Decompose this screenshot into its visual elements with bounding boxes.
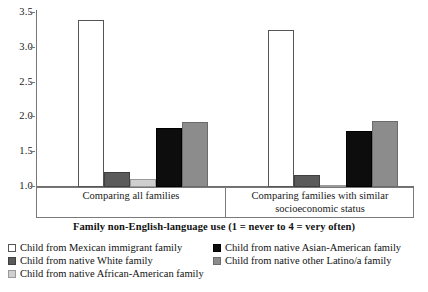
category-label-1: Comparing families with similarsocioecon… <box>226 190 414 215</box>
legend-swatch <box>213 257 221 265</box>
legend-item-3: Child from native Asian-American family <box>213 241 401 254</box>
legend-item-0: Child from Mexican immigrant family <box>8 241 182 254</box>
y-tick-mark <box>30 12 35 13</box>
legend-label: Child from Mexican immigrant family <box>20 242 182 253</box>
legend-swatch <box>8 257 16 265</box>
y-tick-mark <box>30 82 35 83</box>
y-tick-mark <box>30 116 35 117</box>
legend-label: Child from native White family <box>20 255 153 266</box>
bar-g1-s3 <box>346 131 372 187</box>
legend-label: Child from native other Latino/a family <box>225 255 392 266</box>
bar-g0-s4 <box>182 122 208 187</box>
bar-g1-s0 <box>268 30 294 187</box>
bar-g0-s3 <box>156 128 182 187</box>
y-tick-mark <box>30 47 35 48</box>
legend-item-2: Child from native African-American famil… <box>8 267 204 280</box>
y-tick-mark <box>30 151 35 152</box>
bar-g0-s1 <box>104 172 130 187</box>
bars-layer <box>36 13 414 187</box>
category-label-line: Comparing all families <box>37 190 225 203</box>
legend-swatch <box>8 244 16 252</box>
bar-g0-s2 <box>130 179 156 187</box>
bar-chart-figure: 3.53.02.52.01.51.0 Comparing all familie… <box>0 0 428 292</box>
legend-label: Child from native African-American famil… <box>20 268 204 279</box>
category-label-line: socioeconomic status <box>226 203 414 216</box>
legend-label: Child from native Asian-American family <box>225 242 401 253</box>
chart-legend: Child from Mexican immigrant familyChild… <box>8 241 420 285</box>
category-label-0: Comparing all families <box>37 190 225 203</box>
bar-g1-s4 <box>372 121 398 187</box>
category-label-line: Comparing families with similar <box>226 190 414 203</box>
legend-swatch <box>213 244 221 252</box>
x-axis-title: Family non-English-language use (1 = nev… <box>0 221 428 232</box>
legend-item-1: Child from native White family <box>8 254 153 267</box>
y-tick-mark <box>30 186 35 187</box>
bar-g1-s1 <box>294 175 320 187</box>
legend-swatch <box>8 270 16 278</box>
bar-g0-s0 <box>78 20 104 187</box>
legend-item-4: Child from native other Latino/a family <box>213 254 392 267</box>
